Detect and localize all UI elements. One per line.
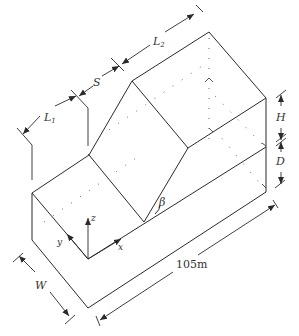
W-dim-top	[19, 256, 35, 272]
vertical-dimensions: H D	[275, 90, 286, 188]
length-dimension: 105m	[96, 200, 278, 326]
slope-front-edge	[144, 148, 188, 222]
W-dim-bottom	[50, 292, 69, 316]
L1-label: L1	[43, 111, 56, 125]
beta-label: β	[158, 196, 165, 209]
toe-top-back-edge	[32, 155, 89, 193]
D-label: D	[275, 155, 285, 168]
S-dim-left	[79, 86, 93, 96]
L2-label: L2	[152, 35, 165, 49]
bottom-left-edge	[32, 240, 88, 308]
crest-top-front-edge	[188, 98, 266, 148]
x-axis-label: x	[118, 242, 123, 252]
hidden-lines	[44, 38, 266, 222]
L1-dim-right	[55, 96, 76, 106]
front-top-edge	[88, 147, 266, 259]
coordinate-axes: z y x	[56, 213, 123, 259]
top-dimensions: L1 S L2	[17, 5, 203, 180]
slope-model-diagram: β z y x L1 S L2 H	[0, 0, 299, 336]
width-dimension: W	[13, 253, 75, 324]
ext-mid	[71, 90, 88, 146]
crest-left-edge	[132, 81, 188, 148]
L2-dim-right	[165, 14, 194, 32]
y-axis	[67, 234, 88, 259]
L1-dim-left	[23, 116, 40, 134]
slope-back-edge	[89, 81, 132, 155]
length-dim-right	[198, 205, 275, 255]
toe-edge	[89, 155, 144, 222]
y-axis-label: y	[56, 237, 63, 247]
W-label: W	[35, 279, 48, 292]
S-dim-right	[102, 66, 119, 76]
ext-left	[17, 128, 32, 180]
x-axis	[88, 239, 121, 259]
length-dim-left	[100, 272, 173, 320]
H-label: H	[275, 111, 286, 124]
L2-dim-left	[122, 45, 150, 64]
bottom-front-edge	[88, 192, 266, 308]
slope-solid	[32, 32, 266, 308]
S-label: S	[93, 76, 101, 89]
length-label: 105m	[176, 258, 208, 271]
z-axis-label: z	[90, 213, 96, 223]
